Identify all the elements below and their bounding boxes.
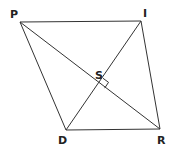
edge-dp <box>20 22 66 130</box>
edge-pi <box>20 21 141 22</box>
edges <box>20 21 160 130</box>
label-s: S <box>95 69 103 82</box>
label-r: R <box>157 134 166 147</box>
label-d: D <box>58 134 67 147</box>
right-angle-marker <box>103 78 109 88</box>
label-i: I <box>143 7 147 20</box>
edge-ir <box>141 21 160 129</box>
edge-pr <box>20 22 160 129</box>
edge-rd <box>66 129 160 130</box>
label-p: P <box>10 8 18 21</box>
geometry-diagram: P I D R S <box>0 0 180 151</box>
edge-id <box>66 21 141 130</box>
